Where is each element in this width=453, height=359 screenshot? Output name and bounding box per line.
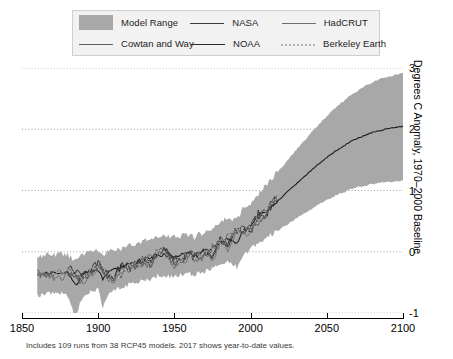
x-axis-tick [98, 313, 99, 319]
x-axis-label: 1900 [86, 322, 110, 334]
legend-label-model-range: Model Range [121, 17, 178, 28]
climate-anomaly-chart [22, 68, 403, 313]
chart-legend: Model Range NASA HadCRUT Cowtan and Way … [72, 10, 380, 56]
legend-label-cowtan-and-way: Cowtan and Way [121, 38, 194, 49]
noaa-line-sample-icon [191, 37, 225, 51]
berkeley-earth-line-sample-icon [281, 37, 315, 51]
legend-item-hadcrut: HadCRUT [282, 12, 379, 33]
cowtan-and-way-line-sample-icon [79, 37, 113, 51]
legend-item-model-range: Model Range [73, 12, 190, 33]
legend-row: Cowtan and Way NOAA Berkeley Earth [73, 33, 379, 54]
nasa-line-sample-icon [190, 16, 224, 30]
legend-row: Model Range NASA HadCRUT [73, 12, 379, 33]
x-axis-label: 2000 [238, 322, 262, 334]
model-range-swatch-icon [79, 15, 113, 30]
x-axis-tick [22, 313, 23, 319]
x-axis-tick [403, 313, 404, 319]
chart-caption: Includes 109 runs from 38 RCP45 models. … [26, 341, 295, 350]
y-axis-title: Degrees C Anomaly, 1970–2000 Baseline [410, 60, 424, 310]
legend-item-cowtan-and-way: Cowtan and Way [73, 33, 191, 54]
legend-label-nasa: NASA [232, 17, 258, 28]
legend-label-hadcrut: HadCRUT [324, 17, 368, 28]
legend-label-noaa: NOAA [233, 38, 260, 49]
x-axis-tick [251, 313, 252, 319]
model-range-band [37, 73, 403, 313]
legend-label-berkeley-earth: Berkeley Earth [323, 38, 386, 49]
legend-item-nasa: NASA [190, 12, 281, 33]
legend-item-berkeley-earth: Berkeley Earth [281, 33, 379, 54]
x-axis-tick [174, 313, 175, 319]
x-axis-label: 1950 [162, 322, 186, 334]
x-axis-tick [327, 313, 328, 319]
legend-item-noaa: NOAA [191, 33, 281, 54]
hadcrut-line-sample-icon [282, 16, 316, 30]
x-axis-label: 2100 [391, 322, 415, 334]
x-axis-line [22, 318, 403, 319]
x-axis-label: 1850 [10, 322, 34, 334]
x-axis-label: 2050 [315, 322, 339, 334]
chart-plot-area [22, 68, 403, 313]
